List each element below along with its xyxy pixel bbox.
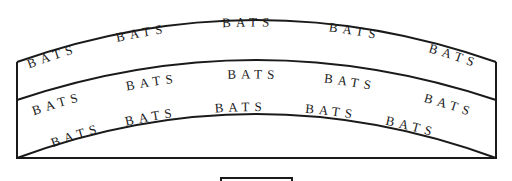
arched-diagram: BATS BATS BATS BATS BATS BATS BATS BATS … xyxy=(0,0,512,181)
bottom-band-label: BATS xyxy=(214,99,267,116)
top-band-label: BATS xyxy=(427,40,481,71)
top-band-label: BATS xyxy=(222,14,275,30)
middle-band-label: BATS xyxy=(125,71,179,94)
middle-band-label: BATS xyxy=(227,66,280,82)
middle-band-label: BATS xyxy=(323,71,377,94)
top-band-label: BATS xyxy=(115,21,169,45)
bottom-band-label: BATS xyxy=(384,113,438,140)
middle-band-label: BATS xyxy=(422,90,476,120)
bottom-band-label: BATS xyxy=(124,105,178,129)
top-band-label: BATS xyxy=(328,19,382,42)
bottom-band-label: BATS xyxy=(49,120,103,150)
top-band-labels: BATS xyxy=(25,41,79,72)
small-box-top xyxy=(221,178,292,181)
